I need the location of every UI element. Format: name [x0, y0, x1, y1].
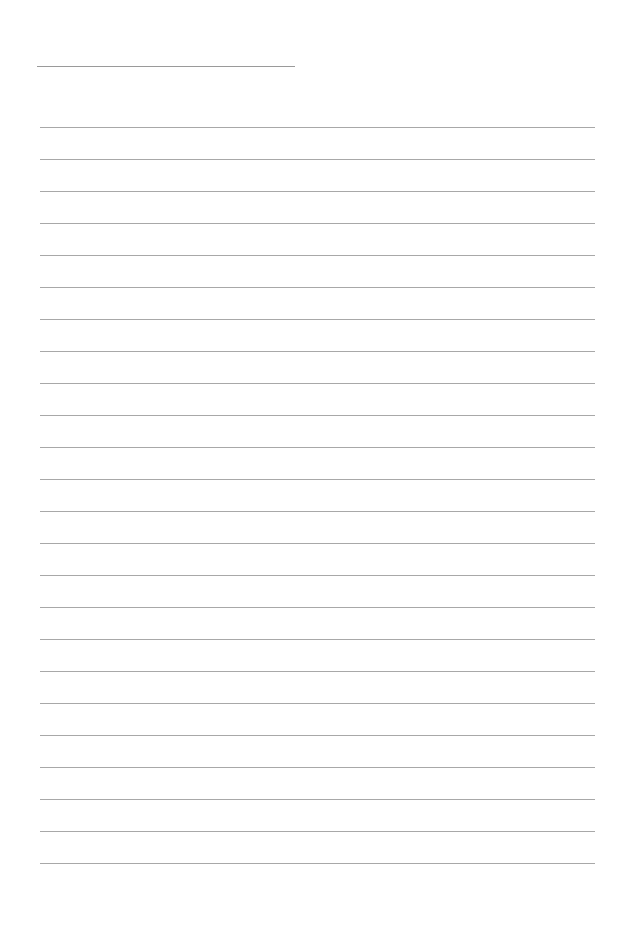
ruled-line — [40, 383, 595, 384]
ruled-line — [40, 607, 595, 608]
ruled-line — [40, 415, 595, 416]
ruled-line — [40, 159, 595, 160]
ruled-line — [40, 255, 595, 256]
ruled-line — [40, 127, 595, 128]
ruled-line — [40, 351, 595, 352]
ruled-line — [40, 287, 595, 288]
ruled-line — [40, 543, 595, 544]
ruled-line — [40, 191, 595, 192]
ruled-line — [40, 671, 595, 672]
ruled-line — [40, 767, 595, 768]
ruled-line — [40, 511, 595, 512]
ruled-line — [40, 735, 595, 736]
title-line — [37, 66, 295, 67]
ruled-line — [40, 575, 595, 576]
ruled-line — [40, 447, 595, 448]
ruled-line — [40, 223, 595, 224]
ruled-line — [40, 639, 595, 640]
ruled-line — [40, 479, 595, 480]
ruled-line — [40, 319, 595, 320]
ruled-line — [40, 831, 595, 832]
ruled-line — [40, 703, 595, 704]
ruled-line — [40, 799, 595, 800]
ruled-line — [40, 863, 595, 864]
